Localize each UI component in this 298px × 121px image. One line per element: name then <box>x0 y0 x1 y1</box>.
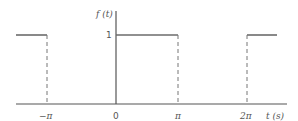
x-tick-label-2pi: 2π <box>240 112 252 121</box>
x-tick-label-neg-pi: −π <box>39 112 52 121</box>
y-axis-label: f (t) <box>96 10 113 19</box>
chart-plot-area <box>0 0 298 121</box>
x-tick-label-pi: π <box>175 112 181 121</box>
x-axis-label: t (s) <box>266 112 284 121</box>
x-tick-label-0: 0 <box>113 112 119 121</box>
y-tick-label-1: 1 <box>106 31 112 40</box>
square-wave-chart: f (t) 1 −π 0 π 2π t (s) <box>0 0 298 121</box>
